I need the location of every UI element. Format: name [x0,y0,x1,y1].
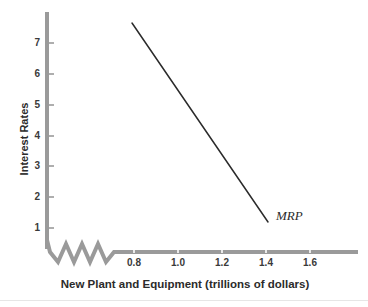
x-tick-label-1-0: 1.0 [158,258,198,268]
y-axis-ticks [49,43,54,228]
y-tick-label-6: 6 [24,69,40,79]
x-tick-label-1-2: 1.2 [202,258,242,268]
x-tick-label-0-8: 0.8 [114,258,154,268]
chart-figure: 7 6 5 4 3 2 1 0.8 1.0 1.2 1.4 1.6 Intere… [0,0,368,307]
y-tick-label-1: 1 [24,223,40,233]
x-axis-title: New Plant and Equipment (trillions of do… [30,278,340,290]
y-axis-title: Interest Rates [18,89,30,189]
bottom-divider [0,300,368,301]
y-tick-label-7: 7 [24,38,40,48]
x-axis-break-zigzag-icon [47,240,124,262]
series-label-mrp: MRP [276,208,303,224]
x-tick-label-1-4: 1.4 [246,258,286,268]
x-tick-label-1-6: 1.6 [290,258,330,268]
y-tick-label-2: 2 [24,192,40,202]
series-line-mrp [132,23,268,222]
